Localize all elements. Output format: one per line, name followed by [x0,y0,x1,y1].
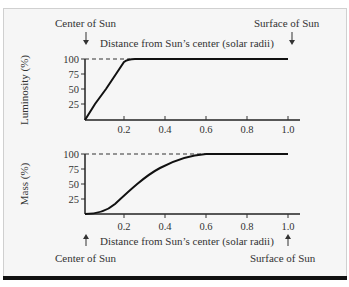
mass-curve [85,154,288,214]
svg-text:25: 25 [69,194,80,205]
svg-text:100: 100 [63,54,79,65]
svg-text:25: 25 [69,99,80,110]
luminosity-curve [85,59,288,120]
down-arrow-icon [289,32,295,45]
svg-text:50: 50 [69,84,80,95]
center-of-sun-label-bottom: Center of Sun [55,252,117,264]
x-axis-label-top: Distance from Sun’s center (solar radii) [100,37,274,50]
svg-text:0.2: 0.2 [117,221,130,232]
luminosity-y-ticks: 100 75 50 25 [63,54,85,110]
svg-text:1.0: 1.0 [281,124,294,135]
luminosity-x-ticks: 0.2 0.4 0.6 0.8 1.0 [117,116,294,135]
svg-text:0.6: 0.6 [199,221,212,232]
up-arrow-icon [83,234,89,246]
down-arrow-icon [83,32,89,45]
svg-text:0.6: 0.6 [199,124,212,135]
svg-text:50: 50 [69,179,80,190]
svg-text:0.4: 0.4 [158,221,172,232]
y-axis-label-luminosity: Luminosity (%) [18,55,31,125]
up-arrow-icon [285,234,291,246]
svg-text:75: 75 [69,164,80,175]
surface-of-sun-label-bottom: Surface of Sun [250,252,316,264]
mass-y-ticks: 100 75 50 25 [63,149,85,205]
svg-text:0.4: 0.4 [158,124,172,135]
svg-text:75: 75 [69,69,80,80]
y-axis-label-mass: Mass (%) [18,162,31,205]
mass-x-ticks: 0.2 0.4 0.6 0.8 1.0 [117,214,294,232]
chart-canvas: Center of Sun Surface of Sun Distance fr… [0,0,349,287]
x-axis-label-bottom: Distance from Sun’s center (solar radii) [100,235,274,248]
svg-text:100: 100 [63,149,79,160]
svg-text:0.8: 0.8 [240,221,253,232]
surface-of-sun-label-top: Surface of Sun [254,17,320,29]
center-of-sun-label-top: Center of Sun [55,17,117,29]
svg-text:1.0: 1.0 [281,221,294,232]
svg-text:0.2: 0.2 [117,124,130,135]
svg-text:0.8: 0.8 [240,124,253,135]
